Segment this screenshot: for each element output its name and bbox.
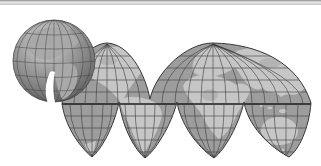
top-divider-bar: [0, 0, 321, 5]
texture-africa: [202, 89, 218, 101]
land-indonesia-1: [260, 105, 264, 107]
map-projection-illustration: Interrupted Goode-type flat world map wi…: [0, 0, 321, 166]
land-indonesia-2: [268, 107, 273, 109]
land-tasmania: [282, 149, 285, 152]
